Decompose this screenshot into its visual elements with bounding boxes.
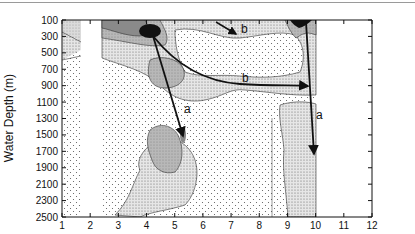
- y-tick-label: 100: [41, 15, 58, 26]
- x-tick-label: 10: [310, 220, 322, 231]
- x-tick-label: 9: [285, 220, 291, 231]
- x-axis-title: Month: [200, 232, 233, 234]
- label-a-2: a: [316, 108, 323, 122]
- x-tick-label: 5: [172, 220, 178, 231]
- x-tick-label: 12: [366, 220, 378, 231]
- y-tick-label: 1300: [36, 113, 59, 124]
- x-tick-label: 11: [339, 220, 350, 231]
- y-tick-label: 1700: [36, 146, 59, 157]
- y-tick-label: 2100: [36, 179, 59, 190]
- label-b-2: b: [241, 22, 248, 36]
- y-tick-label: 300: [41, 31, 58, 42]
- y-tick-label: 1500: [36, 129, 59, 140]
- x-tick-label: 3: [116, 220, 122, 231]
- contour-chart: a a b b 10030050070090011001300150017001…: [0, 0, 415, 234]
- x-tick-label: 7: [228, 220, 234, 231]
- y-axis-title: Water Depth (m): [2, 74, 16, 162]
- y-tick-label: 2500: [36, 212, 59, 223]
- y-tick-label: 1100: [36, 97, 58, 108]
- x-tick-label: 4: [144, 220, 150, 231]
- y-tick-label: 1900: [36, 162, 59, 173]
- y-tick-label: 900: [41, 80, 58, 91]
- label-b-1: b: [242, 71, 249, 85]
- label-a-1: a: [184, 102, 191, 116]
- x-tick-label: 1: [59, 220, 65, 231]
- x-tick-label: 6: [200, 220, 206, 231]
- y-tick-label: 2300: [36, 195, 59, 206]
- x-tick-label: 8: [256, 220, 262, 231]
- y-tick-label: 700: [41, 64, 58, 75]
- y-tick-label: 500: [41, 47, 58, 58]
- x-tick-label: 2: [87, 220, 93, 231]
- contour-fill: [62, 20, 316, 217]
